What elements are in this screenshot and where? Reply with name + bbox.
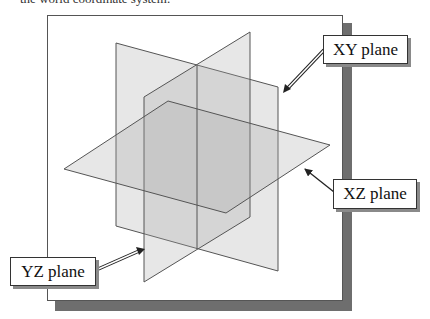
yz-arrow [96, 247, 145, 270]
yz-plane-label: YZ plane [10, 257, 96, 286]
xy-plane-label-text: XY plane [333, 40, 398, 60]
yz-plane-label-text: YZ plane [21, 262, 85, 282]
xz-plane-label: XZ plane [333, 179, 417, 209]
xy-arrow [283, 50, 324, 93]
xz-plane-label-text: XZ plane [343, 184, 407, 204]
xy-plane-label: XY plane [323, 35, 408, 64]
xz-arrow [305, 169, 334, 192]
